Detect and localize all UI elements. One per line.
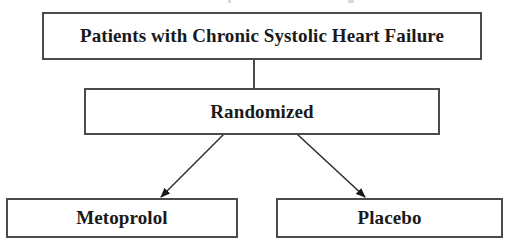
placebo-arm-box: Placebo — [276, 198, 503, 238]
metoprolol-arm-box: Metoprolol — [6, 198, 238, 238]
randomized-box: Randomized — [84, 88, 440, 135]
placebo-label: Placebo — [357, 207, 421, 229]
arrow-to-metoprolol — [161, 134, 224, 197]
population-label: Patients with Chronic Systolic Heart Fai… — [80, 25, 444, 47]
arrow-to-placebo — [297, 134, 365, 197]
metoprolol-label: Metoprolol — [76, 207, 167, 229]
randomized-label: Randomized — [210, 101, 313, 123]
population-box: Patients with Chronic Systolic Heart Fai… — [42, 12, 482, 60]
